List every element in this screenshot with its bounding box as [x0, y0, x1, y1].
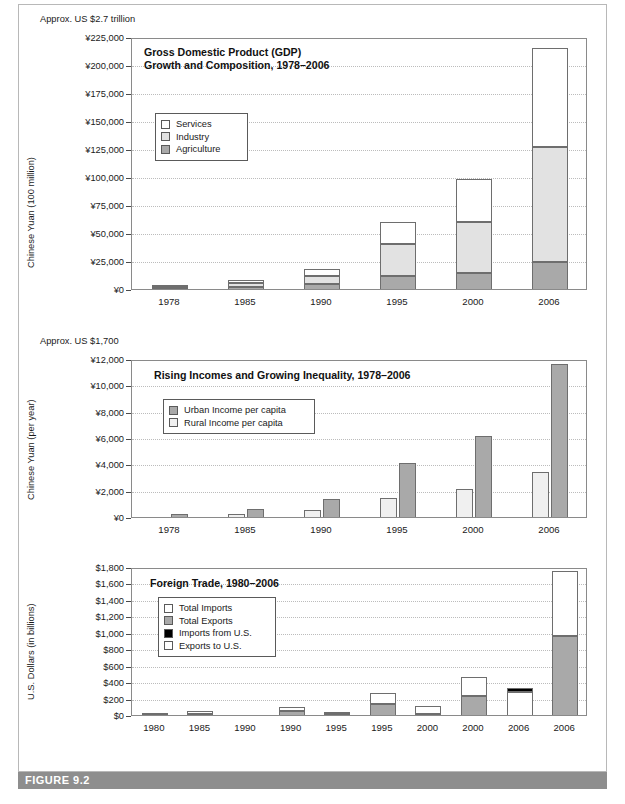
y-tick-label: ¥75,000	[59, 201, 124, 211]
x-tick-label-gdp-1978: 1978	[158, 296, 179, 307]
bar-segment-total-imports	[552, 571, 578, 636]
y-tick-label: ¥100,000	[59, 173, 124, 183]
gridline	[132, 386, 586, 387]
bar-trade-1985-1	[187, 712, 213, 716]
legend-item: Services	[161, 118, 239, 131]
y-tick-label: ¥6,000	[59, 434, 124, 444]
y-tick-mark	[126, 94, 131, 95]
y-tick-mark	[126, 601, 131, 602]
legend-swatch-services	[161, 120, 170, 129]
legend-label: Imports from U.S.	[179, 628, 252, 638]
bar-trade-2006-8	[507, 689, 533, 716]
y-tick-label: ¥4,000	[59, 460, 124, 470]
y-tick-mark	[126, 290, 131, 291]
y-tick-mark	[126, 122, 131, 123]
gridline	[132, 683, 586, 684]
figure-caption-bar: FIGURE 9.2	[18, 772, 607, 789]
bar-gdp-1995	[380, 223, 416, 290]
y-tick-label: ¥50,000	[59, 229, 124, 239]
legend-label: Agriculture	[176, 144, 220, 154]
legend-swatch-total-exports	[164, 616, 173, 625]
bar-segment-total-imports	[142, 713, 168, 715]
gridline	[132, 568, 586, 569]
x-tick-label-gdp-2000: 2000	[462, 296, 483, 307]
y-tick-mark	[126, 634, 131, 635]
y-tick-label: ¥0	[59, 285, 124, 295]
x-tick-label-trade-5: 1995	[371, 722, 392, 733]
y-tick-label: ¥12,000	[59, 355, 124, 365]
y-tick-label: $1,000	[59, 629, 124, 639]
approx-note-gdp: Approx. US $2.7 trillion	[40, 14, 135, 24]
x-tick-label-gdp-1985: 1985	[234, 296, 255, 307]
y-tick-label: ¥2,000	[59, 487, 124, 497]
bar-trade-1995-4	[324, 714, 350, 716]
bar-incomes-1985-urban	[247, 509, 264, 518]
x-tick-label-trade-6: 2000	[417, 722, 438, 733]
bar-segment-total-imports	[370, 693, 396, 704]
bar-segment-industry	[456, 222, 492, 273]
y-tick-label: ¥8,000	[59, 408, 124, 418]
bar-segment-industry	[304, 276, 340, 285]
bar-gdp-2000	[456, 180, 492, 290]
y-tick-label: ¥150,000	[59, 117, 124, 127]
y-tick-mark	[126, 492, 131, 493]
bar-segment-agriculture	[304, 284, 340, 290]
y-axis-label-trade: U.S. Dollars (in billions)	[26, 603, 36, 700]
x-tick-label-gdp-1995: 1995	[386, 296, 407, 307]
bar-segment-agriculture	[380, 276, 416, 290]
bar-trade-2000-7	[461, 678, 487, 716]
y-tick-mark	[126, 617, 131, 618]
legend-label: Urban Income per capita	[184, 405, 286, 415]
chart-title-incomes: Rising Incomes and Growing Inequality, 1…	[154, 369, 411, 382]
legend-label: Services	[176, 119, 212, 129]
legend-item: Total Imports	[164, 602, 267, 615]
bar-segment-imports-from-us	[233, 715, 259, 716]
y-tick-mark	[126, 360, 131, 361]
legend-gdp: ServicesIndustryAgriculture	[155, 113, 248, 161]
bar-gdp-1978	[152, 287, 188, 290]
y-tick-label: $1,800	[59, 563, 124, 573]
bar-segment-imports-from-us	[415, 714, 441, 716]
x-tick-label-trade-7: 2000	[462, 722, 483, 733]
gridline	[132, 667, 586, 668]
y-tick-mark	[126, 667, 131, 668]
bar-gdp-2006	[532, 49, 568, 290]
legend-swatch-agriculture	[161, 145, 170, 154]
legend-item: Industry	[161, 131, 239, 144]
gridline	[132, 178, 586, 179]
y-tick-mark	[126, 38, 131, 39]
bar-segment-total-exports	[370, 704, 396, 716]
y-tick-mark	[126, 716, 131, 717]
x-tick-label-trade-8: 2006	[508, 722, 529, 733]
bar-segment-total-exports	[552, 636, 578, 716]
x-tick-label-trade-0: 1980	[143, 722, 164, 733]
y-tick-label: ¥200,000	[59, 61, 124, 71]
gridline	[132, 465, 586, 466]
y-tick-label: ¥10,000	[59, 381, 124, 391]
bar-trade-1995-5	[370, 694, 396, 716]
bar-incomes-1990-urban	[323, 499, 340, 518]
bar-segment-exports-to-us	[324, 712, 350, 714]
legend-swatch-imports-from-us	[164, 629, 173, 638]
gridline	[132, 38, 586, 39]
legend-incomes: Urban Income per capitaRural Income per …	[163, 399, 315, 434]
bar-segment-exports-to-us	[415, 706, 441, 714]
approx-note-incomes: Approx. US $1,700	[40, 336, 119, 346]
bar-incomes-1995-urban	[399, 463, 416, 518]
bar-trade-2006-9	[552, 572, 578, 716]
bar-segment-exports-to-us	[507, 692, 533, 716]
y-tick-mark	[126, 262, 131, 263]
legend-item: Agriculture	[161, 143, 239, 156]
plot-area-trade: Foreign Trade, 1980–2006Total ImportsTot…	[131, 568, 587, 716]
x-tick-label-gdp-2006: 2006	[538, 296, 559, 307]
bar-segment-agriculture	[228, 287, 264, 290]
bar-segment-total-imports	[461, 677, 487, 696]
bar-segment-industry	[152, 287, 188, 289]
bar-incomes-1978-urban	[171, 514, 188, 518]
y-tick-mark	[126, 66, 131, 67]
bar-incomes-2006-urban	[551, 364, 568, 518]
x-tick-label-incomes-2006: 2006	[538, 524, 559, 535]
legend-label: Total Imports	[179, 603, 232, 613]
y-tick-label: $0	[59, 711, 124, 721]
chart-title-trade: Foreign Trade, 1980–2006	[150, 577, 279, 590]
